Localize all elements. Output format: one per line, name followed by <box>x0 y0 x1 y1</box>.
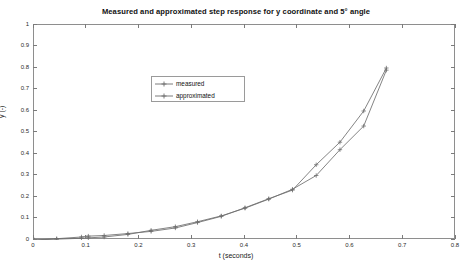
legend-line-sample-approximated <box>154 91 174 101</box>
x-tickmark-top <box>244 24 245 28</box>
x-tick-label: 0.6 <box>336 242 364 248</box>
y-tickmark-right <box>451 217 455 218</box>
y-tickmark-right <box>451 110 455 111</box>
x-tick-label: 0.1 <box>72 242 100 248</box>
y-tick-label: 0.6 <box>3 107 29 113</box>
x-axis-label: t (seconds) <box>0 252 472 259</box>
x-tickmark <box>244 235 245 239</box>
x-tick-label: 0.2 <box>125 242 153 248</box>
y-tickmark <box>33 24 37 25</box>
x-tickmark <box>191 235 192 239</box>
chart-title: Measured and approximated step response … <box>0 7 472 16</box>
x-tickmark-top <box>402 24 403 28</box>
x-tickmark-top <box>296 24 297 28</box>
y-tickmark <box>33 110 37 111</box>
x-tickmark <box>296 235 297 239</box>
x-tickmark <box>138 235 139 239</box>
plot-area <box>33 24 455 239</box>
x-tick-label: 0.3 <box>177 242 205 248</box>
x-tick-label: 0 <box>19 242 47 248</box>
x-tickmark-top <box>455 24 456 28</box>
y-axis-label: y (-) <box>0 106 5 118</box>
x-tickmark-top <box>349 24 350 28</box>
x-tickmark-top <box>138 24 139 28</box>
y-tick-label: 0.8 <box>3 64 29 70</box>
y-tickmark-right <box>451 131 455 132</box>
y-tickmark <box>33 67 37 68</box>
y-tick-label: 0 <box>3 236 29 242</box>
legend-item-approximated: approximated <box>154 90 242 102</box>
y-tick-label: 0.1 <box>3 214 29 220</box>
x-tick-label: 0.4 <box>230 242 258 248</box>
y-tick-label: 0.4 <box>3 150 29 156</box>
x-tick-label: 0.7 <box>388 242 416 248</box>
x-tick-label: 0.8 <box>441 242 469 248</box>
y-tick-label: 1 <box>3 21 29 27</box>
series-plot <box>34 25 456 240</box>
y-tickmark-right <box>451 239 455 240</box>
y-tick-label: 0.7 <box>3 85 29 91</box>
y-tick-label: 0.2 <box>3 193 29 199</box>
y-tickmark <box>33 131 37 132</box>
y-tickmark-right <box>451 153 455 154</box>
y-tickmark-right <box>451 45 455 46</box>
legend: measured approximated <box>151 76 245 102</box>
legend-item-measured: measured <box>154 78 242 90</box>
legend-line-sample-measured <box>154 79 174 89</box>
y-tick-label: 0.3 <box>3 171 29 177</box>
legend-label-approximated: approximated <box>176 90 215 102</box>
y-tickmark <box>33 196 37 197</box>
figure-canvas: Measured and approximated step response … <box>0 0 472 270</box>
x-tickmark <box>402 235 403 239</box>
y-tick-label: 0.5 <box>3 128 29 134</box>
y-tickmark-right <box>451 88 455 89</box>
y-tickmark <box>33 217 37 218</box>
y-tickmark <box>33 88 37 89</box>
y-tickmark <box>33 239 37 240</box>
y-tickmark <box>33 153 37 154</box>
x-tickmark-top <box>191 24 192 28</box>
y-tickmark <box>33 174 37 175</box>
y-tick-label: 0.9 <box>3 42 29 48</box>
y-tickmark-right <box>451 196 455 197</box>
x-tickmark-top <box>33 24 34 28</box>
x-tickmark <box>349 235 350 239</box>
y-tickmark-right <box>451 174 455 175</box>
legend-label-measured: measured <box>176 78 204 90</box>
x-tick-label: 0.5 <box>283 242 311 248</box>
x-tickmark-top <box>85 24 86 28</box>
y-tickmark <box>33 45 37 46</box>
y-tickmark-right <box>451 67 455 68</box>
y-tickmark-right <box>451 24 455 25</box>
x-tickmark <box>85 235 86 239</box>
